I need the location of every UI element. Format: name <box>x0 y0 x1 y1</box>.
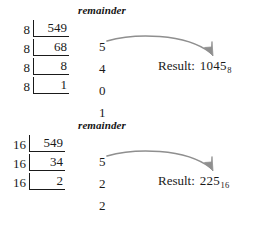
remainder-digit: 4 <box>99 58 106 80</box>
division-row: 8 8 <box>10 56 69 75</box>
remainder-column-octal: 5 4 0 1 <box>99 36 106 124</box>
result-octal: Result:10458 <box>158 58 231 75</box>
division-row: 16 34 <box>6 152 65 171</box>
conversion-block-hexadecimal: remainder 16 549 16 34 16 2 5 2 2 Result… <box>0 115 264 231</box>
result-label: Result: <box>158 173 195 188</box>
divisor: 16 <box>6 137 29 152</box>
division-ladder-octal: 8 549 8 68 8 8 8 1 <box>10 18 69 94</box>
result-value: 1045 <box>200 58 227 73</box>
divisor: 8 <box>10 41 33 56</box>
dividend: 1 <box>33 77 69 94</box>
remainder-label: remainder <box>78 119 126 131</box>
dividend: 2 <box>29 173 65 190</box>
dividend: 549 <box>33 20 69 37</box>
result-label: Result: <box>158 58 195 73</box>
division-row: 8 68 <box>10 37 69 56</box>
remainder-digit: 5 <box>99 151 106 173</box>
divisor: 8 <box>10 60 33 75</box>
dividend: 68 <box>33 39 69 56</box>
divisor: 8 <box>10 22 33 37</box>
division-ladder-hexadecimal: 16 549 16 34 16 2 <box>6 133 65 190</box>
remainder-label: remainder <box>78 4 126 16</box>
remainder-digit: 2 <box>99 195 106 217</box>
dividend: 549 <box>29 135 65 152</box>
conversion-block-octal: remainder 8 549 8 68 8 8 8 1 5 4 0 1 Res… <box>0 0 264 118</box>
division-row: 16 549 <box>6 133 65 152</box>
division-row: 16 2 <box>6 171 65 190</box>
result-base-subscript: 16 <box>220 180 229 190</box>
divisor: 8 <box>10 79 33 94</box>
division-row: 8 1 <box>10 75 69 94</box>
remainder-column-hexadecimal: 5 2 2 <box>99 151 106 217</box>
result-value: 225 <box>200 173 220 188</box>
divisor: 16 <box>6 156 29 171</box>
result-hexadecimal: Result:22516 <box>158 173 229 190</box>
division-row: 8 549 <box>10 18 69 37</box>
remainder-digit: 0 <box>99 80 106 102</box>
divisor: 16 <box>6 175 29 190</box>
remainder-digit: 5 <box>99 36 106 58</box>
remainder-digit: 2 <box>99 173 106 195</box>
dividend: 34 <box>29 154 65 171</box>
result-base-subscript: 8 <box>227 65 231 75</box>
dividend: 8 <box>33 58 69 75</box>
